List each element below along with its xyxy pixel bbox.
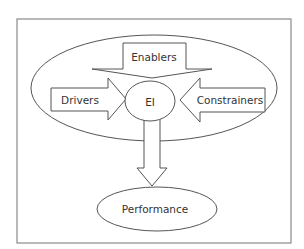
- constrainers-label: Constrainers: [197, 94, 264, 106]
- ei-label: EI: [145, 96, 155, 108]
- drivers-label: Drivers: [61, 94, 99, 106]
- enablers-label: Enablers: [131, 51, 177, 63]
- performance-label: Performance: [122, 203, 189, 215]
- ei-node: EI: [125, 81, 175, 121]
- performance-node: Performance: [97, 187, 217, 231]
- ei-performance-diagram: Enablers Drivers Constrainers EI Perform…: [0, 0, 304, 249]
